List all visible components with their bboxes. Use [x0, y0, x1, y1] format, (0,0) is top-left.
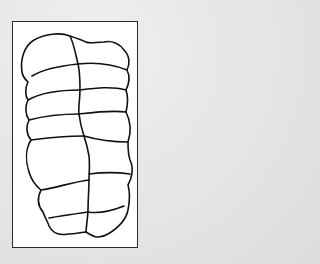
central-seam: [70, 36, 89, 232]
segmented-outline-drawing: [0, 0, 150, 264]
